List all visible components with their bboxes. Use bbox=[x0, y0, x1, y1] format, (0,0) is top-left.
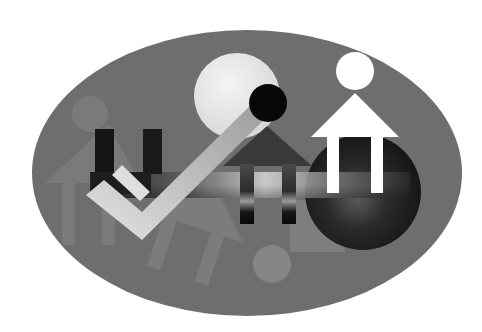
figure-leg bbox=[327, 136, 339, 193]
figure-head bbox=[72, 96, 108, 132]
figure-leg bbox=[282, 164, 296, 224]
figure-head bbox=[336, 52, 374, 90]
artwork-canvas bbox=[0, 0, 482, 332]
figure-leg bbox=[62, 183, 75, 245]
figure-leg bbox=[371, 136, 383, 193]
figure-head bbox=[249, 84, 287, 122]
figure-leg bbox=[240, 164, 254, 224]
faint-circle bbox=[253, 245, 291, 283]
figure-leg bbox=[143, 129, 162, 174]
